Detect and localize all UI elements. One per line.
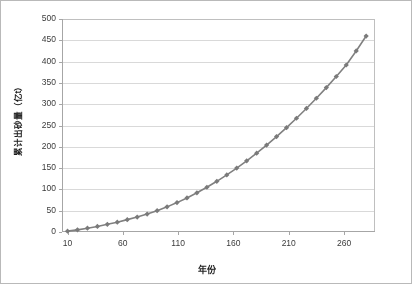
x-tick-label: 10 (48, 238, 88, 248)
y-tick-label: 100 (18, 183, 56, 193)
x-tick-label: 60 (103, 238, 143, 248)
x-tick-label: 160 (213, 238, 253, 248)
chart-figure: 累计出砂量（亿t） 年份 050100150200250300350400450… (0, 0, 412, 284)
y-tick-label: 350 (18, 77, 56, 87)
y-tick-label: 250 (18, 120, 56, 130)
x-axis-title: 年份 (1, 263, 412, 276)
y-tick-label: 450 (18, 34, 56, 44)
y-tick-label: 0 (18, 226, 56, 236)
y-tick-label: 50 (18, 205, 56, 215)
y-tick-label: 200 (18, 141, 56, 151)
x-tick-label: 260 (324, 238, 364, 248)
y-tick-label: 150 (18, 162, 56, 172)
x-tick-label: 210 (269, 238, 309, 248)
y-tick-label: 400 (18, 56, 56, 66)
y-tick-label: 300 (18, 98, 56, 108)
x-tick-label: 110 (158, 238, 198, 248)
y-tick-label: 500 (18, 13, 56, 23)
